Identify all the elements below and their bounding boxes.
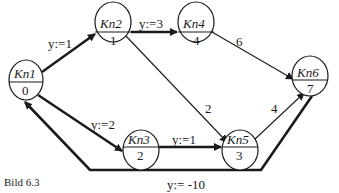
node-kn5-value: 3 — [236, 149, 243, 162]
node-kn3-name: Kn3 — [128, 133, 150, 146]
edge-kn2-kn5 — [126, 36, 227, 142]
edge-label-kn3-kn5: y:=1 — [172, 133, 196, 146]
edge-label-kn1-kn2: y:=1 — [48, 37, 72, 50]
edge-label-kn1-kn3: y:=2 — [91, 118, 115, 131]
node-kn2-name: Kn2 — [100, 17, 122, 30]
node-kn4-name: Kn4 — [183, 17, 205, 30]
edge-label-kn5-kn6: 4 — [271, 102, 278, 115]
graph-canvas — [0, 0, 339, 193]
edge-label-kn2-kn5: 2 — [205, 102, 212, 115]
node-kn2-value: 1 — [110, 34, 117, 47]
edge-label-kn4-kn6: 6 — [236, 35, 243, 48]
node-kn4-value: 4 — [193, 34, 200, 47]
node-kn6-name: Kn6 — [297, 66, 319, 79]
node-kn6-value: 7 — [307, 82, 314, 95]
node-kn1-name: Kn1 — [14, 67, 36, 80]
node-kn3-value: 2 — [137, 149, 144, 162]
edge-kn4-kn6 — [212, 32, 293, 79]
edge-label-kn6-kn1: y:= -10 — [167, 178, 205, 191]
node-kn1-value: 0 — [22, 84, 29, 97]
edge-label-kn2-kn4: y:=3 — [139, 17, 163, 30]
figure-caption: Bild 6.3 — [4, 176, 39, 188]
node-kn5-name: Kn5 — [227, 133, 249, 146]
edge-kn6-kn1 — [25, 96, 312, 170]
